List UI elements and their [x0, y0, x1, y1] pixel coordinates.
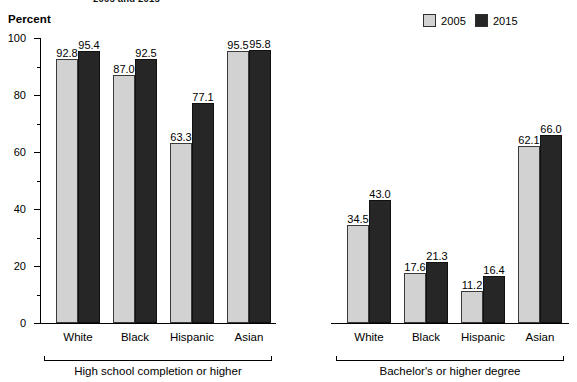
bar-2005-black: 17.6	[404, 273, 426, 323]
bar-value-label: 17.6	[404, 261, 425, 273]
bar-2005-asian: 95.5	[227, 51, 249, 323]
bar-value-label: 66.0	[540, 123, 561, 135]
bar-value-label: 16.4	[483, 264, 504, 276]
chart-legend: 2005 2015	[423, 14, 518, 27]
bar-value-label: 92.5	[135, 47, 156, 59]
y-tick-minor	[37, 238, 40, 239]
bar-2015-black: 21.3	[426, 262, 448, 323]
bar-value-label: 63.3	[170, 131, 191, 143]
legend-label-2015: 2015	[493, 15, 518, 27]
bar-2015-white: 43.0	[369, 200, 391, 323]
plot-area: 020406080100 92.895.487.092.563.377.195.…	[40, 38, 569, 323]
chart-page: 2005 and 2015 Percent 2005 2015 02040608…	[0, 0, 577, 382]
bar-value-label: 77.1	[192, 91, 213, 103]
category-label-asian: Asian	[526, 331, 555, 343]
category-label-white: White	[63, 331, 92, 343]
bar-value-label: 92.8	[56, 47, 77, 59]
bar-2015-asian: 66.0	[540, 135, 562, 323]
bar-2015-hispanic: 77.1	[192, 103, 214, 323]
bar-2005-white: 92.8	[56, 59, 78, 323]
bar-value-label: 11.2	[462, 279, 483, 291]
y-tick-label: 40	[14, 203, 26, 215]
bar-value-label: 95.8	[249, 38, 270, 50]
y-tick-minor	[37, 124, 40, 125]
group-label-bachelors: Bachelor's or higher degree	[380, 365, 521, 377]
y-axis-caption: Percent	[8, 13, 51, 25]
y-tick-label: 0	[20, 317, 26, 329]
y-tick-label: 100	[8, 32, 26, 44]
bar-value-label: 34.5	[347, 213, 368, 225]
bar-value-label: 95.4	[78, 39, 99, 51]
y-tick-major: 60	[34, 152, 40, 153]
legend-label-2005: 2005	[441, 15, 466, 27]
bar-2005-white: 34.5	[347, 225, 369, 323]
y-tick-major: 40	[34, 209, 40, 210]
y-tick-minor	[37, 181, 40, 182]
category-label-black: Black	[412, 331, 440, 343]
bar-2015-hispanic: 16.4	[483, 276, 505, 323]
y-tick-major: 100	[34, 38, 40, 39]
legend-item-2015: 2015	[475, 14, 518, 27]
bar-value-label: 21.3	[426, 250, 447, 262]
bar-2015-white: 95.4	[78, 51, 100, 323]
y-tick-minor	[37, 295, 40, 296]
bar-2005-hispanic: 11.2	[461, 291, 483, 323]
legend-swatch-icon-2015	[475, 14, 488, 27]
y-tick-major: 80	[34, 95, 40, 96]
y-tick-major: 0	[34, 323, 40, 324]
group-bracket-left	[44, 360, 272, 361]
bar-value-label: 43.0	[369, 188, 390, 200]
category-label-black: Black	[121, 331, 149, 343]
y-tick-minor	[37, 67, 40, 68]
bar-2015-black: 92.5	[135, 59, 157, 323]
y-axis-line	[40, 38, 41, 324]
category-label-hispanic: Hispanic	[170, 331, 214, 343]
group-bracket-right	[336, 360, 564, 361]
legend-item-2005: 2005	[423, 14, 466, 27]
category-label-hispanic: Hispanic	[461, 331, 505, 343]
chart-title-fragment: 2005 and 2015	[93, 0, 160, 4]
legend-swatch-icon-2005	[423, 14, 436, 27]
bar-value-label: 62.1	[518, 134, 539, 146]
x-axis-baseline-left	[40, 323, 276, 324]
group-label-highschool: High school completion or higher	[74, 365, 241, 377]
bar-2005-asian: 62.1	[518, 146, 540, 323]
bar-value-label: 95.5	[227, 39, 248, 51]
y-tick-major: 20	[34, 266, 40, 267]
y-tick-label: 20	[14, 260, 26, 272]
y-tick-label: 80	[14, 89, 26, 101]
bar-2005-black: 87.0	[113, 75, 135, 323]
bar-value-label: 87.0	[113, 63, 134, 75]
bar-2005-hispanic: 63.3	[170, 143, 192, 323]
x-axis-baseline-right	[331, 323, 569, 324]
bar-2015-asian: 95.8	[249, 50, 271, 323]
category-label-white: White	[354, 331, 383, 343]
category-label-asian: Asian	[235, 331, 264, 343]
y-tick-label: 60	[14, 146, 26, 158]
